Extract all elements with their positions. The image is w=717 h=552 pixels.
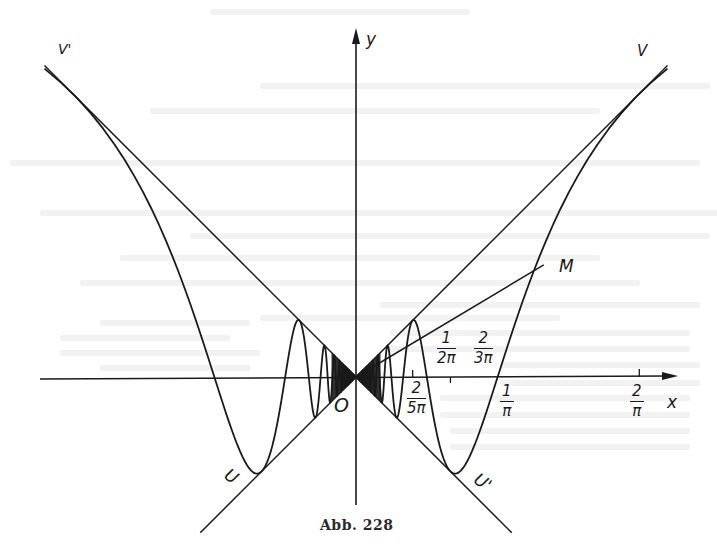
point-label-v-right: V <box>637 44 647 59</box>
origin-label: O <box>334 396 349 415</box>
tick-label-1-over-2pi: 1 2π <box>437 331 456 366</box>
y-axis-arrow-icon <box>352 28 360 44</box>
y-axis-label: y <box>366 31 376 48</box>
tick-label-2-over-5pi: 2 5π <box>407 381 426 416</box>
tick-den: 3π <box>474 351 493 366</box>
x-axis-label: x <box>667 394 677 411</box>
function-plot <box>0 0 717 552</box>
x-axis-arrow-icon <box>662 372 678 380</box>
tick-label-2-over-pi: 2 π <box>630 384 644 419</box>
tick-num: 2 <box>630 384 644 399</box>
point-label-m: M <box>559 258 574 275</box>
tick-den: π <box>632 404 641 419</box>
envelope-line-y-equals-minus-x <box>45 66 512 533</box>
tick-num: 2 <box>477 331 491 346</box>
tick-label-2-over-3pi: 2 3π <box>474 331 493 366</box>
tick-num: 2 <box>410 381 424 396</box>
figure-caption: Abb. 228 <box>320 517 393 533</box>
tick-label-1-over-pi: 1 π <box>500 384 514 419</box>
tick-den: 5π <box>407 401 426 416</box>
envelope-line-y-equals-x <box>200 66 667 533</box>
axes <box>40 28 678 505</box>
tick-num: 1 <box>500 384 514 399</box>
tick-den: 2π <box>437 351 456 366</box>
point-label-v-left: V' <box>58 42 71 56</box>
tick-den: π <box>502 404 511 419</box>
tick-num: 1 <box>440 331 454 346</box>
